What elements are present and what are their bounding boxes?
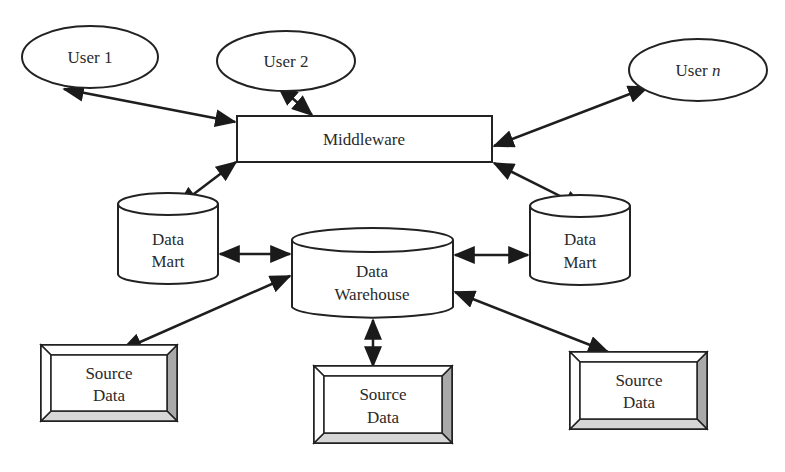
datamart-right-line1: Data	[564, 230, 597, 249]
source-center-node: Source Data	[314, 366, 452, 443]
source-center-bevel-right	[442, 366, 452, 443]
source-left-bevel-left	[41, 345, 51, 421]
source-right-bevel-left	[570, 352, 580, 429]
warehouse-cylinder-top	[292, 228, 453, 252]
edge-usern-middleware	[494, 87, 648, 146]
warehouse-line1: Data	[356, 262, 389, 281]
user-n-prefix: User	[676, 61, 712, 80]
source-left-bevel-right	[167, 345, 177, 421]
user-1-node: User 1	[22, 26, 158, 88]
source-right-bevel-right	[697, 352, 707, 429]
source-left-line1: Source	[85, 364, 132, 383]
middleware-node: Middleware	[237, 116, 492, 162]
source-center-bevel-top	[314, 366, 452, 376]
datamart-right-line2: Mart	[563, 253, 596, 272]
source-center-line2: Data	[367, 408, 400, 427]
warehouse-line2: Warehouse	[334, 285, 409, 304]
source-right-line2: Data	[623, 393, 656, 412]
datamart-left-line1: Data	[152, 230, 185, 249]
warehouse-node: Data Warehouse	[292, 228, 453, 318]
source-left-bevel-bottom	[41, 411, 177, 421]
edge-warehouse-source-right	[455, 292, 608, 352]
datamart-right-cylinder-top	[530, 195, 630, 217]
source-right-node: Source Data	[570, 352, 707, 429]
source-left-node: Source Data	[41, 345, 177, 421]
data-warehouse-architecture-diagram: User 1 User 2 User n Middleware Data Mar…	[0, 0, 785, 472]
user-n-node: User n	[629, 39, 767, 101]
edge-user1-middleware	[64, 89, 235, 122]
edge-warehouse-source-left	[122, 276, 290, 350]
source-right-bevel-bottom	[570, 419, 707, 429]
source-left-bevel-top	[41, 345, 177, 355]
user-n-label: User n	[676, 61, 721, 80]
user-2-label: User 2	[264, 52, 309, 71]
source-right-bevel-top	[570, 352, 707, 362]
datamart-left-line2: Mart	[151, 252, 184, 271]
datamart-right-node: Data Mart	[530, 195, 630, 285]
source-center-bevel-left	[314, 366, 324, 443]
datamart-left-node: Data Mart	[118, 193, 218, 284]
middleware-label: Middleware	[323, 130, 405, 149]
source-center-bevel-bottom	[314, 433, 452, 443]
user-2-node: User 2	[217, 31, 355, 91]
datamart-left-cylinder-top	[118, 193, 218, 215]
source-center-line1: Source	[359, 385, 406, 404]
source-right-line1: Source	[615, 371, 662, 390]
source-left-line2: Data	[93, 386, 126, 405]
user-n-variable: n	[712, 61, 721, 80]
user-1-label: User 1	[68, 48, 113, 67]
